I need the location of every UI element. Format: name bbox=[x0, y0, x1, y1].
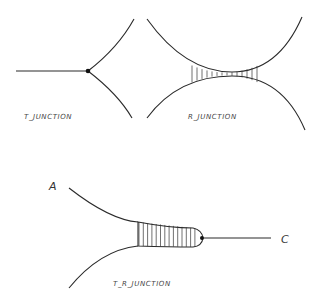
t-junction-lower-arc bbox=[88, 71, 132, 118]
r-junction-label: R_JUNCTION bbox=[188, 113, 237, 121]
tr-junction-upper-arc bbox=[69, 188, 138, 222]
point-c-label: C bbox=[281, 233, 289, 246]
tr-junction-figure: A C T_R_JUNCTION bbox=[48, 180, 289, 288]
t-junction-upper-arc bbox=[88, 19, 134, 71]
t-junction-node bbox=[86, 69, 91, 74]
junction-diagram-canvas: T_JUNCTION R_JUNCTION A C T_R_JUNCTION bbox=[0, 0, 316, 290]
t-junction-figure: T_JUNCTION bbox=[16, 19, 134, 121]
tr-junction-hatching bbox=[139, 222, 195, 247]
r-junction-lower-circle bbox=[147, 76, 305, 130]
t-junction-label: T_JUNCTION bbox=[24, 113, 72, 121]
r-junction-upper-circle bbox=[147, 17, 302, 72]
r-junction-figure: R_JUNCTION bbox=[147, 17, 305, 130]
point-a-label: A bbox=[48, 180, 57, 193]
tr-junction-label: T_R_JUNCTION bbox=[113, 280, 171, 288]
